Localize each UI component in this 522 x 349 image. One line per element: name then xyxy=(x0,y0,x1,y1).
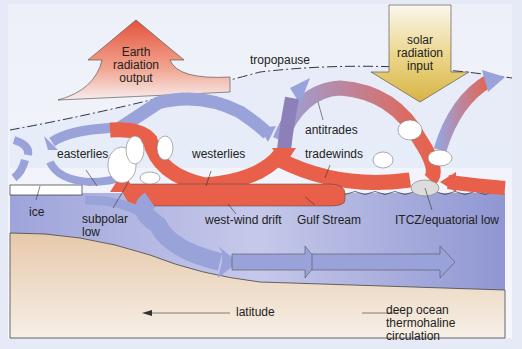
westerlies-label: westerlies xyxy=(192,148,245,161)
tradewinds-label: tradewinds xyxy=(305,148,363,161)
west-wind-drift-label: west-wind drift xyxy=(205,214,282,227)
solar-radiation-label: solar radiation input xyxy=(395,34,445,73)
antitrades-label: antitrades xyxy=(305,124,358,137)
gulf-stream-label: Gulf Stream xyxy=(297,214,361,227)
subpolar-low-label: subpolar low xyxy=(82,213,128,239)
itcz-label: ITCZ/equatorial low xyxy=(395,214,499,227)
latitude-label: latitude xyxy=(236,306,275,319)
circulation-diagram: Earth radiation output solar radiation i… xyxy=(0,0,522,349)
ice-label: ice xyxy=(29,206,44,219)
earth-radiation-label: Earth radiation output xyxy=(108,46,164,85)
tropopause-label: tropopause xyxy=(250,54,310,67)
ice-shelf xyxy=(10,185,82,195)
easterlies-label: easterlies xyxy=(57,148,108,161)
deep-ocean-label: deep ocean thermohaline circulation xyxy=(386,304,455,343)
